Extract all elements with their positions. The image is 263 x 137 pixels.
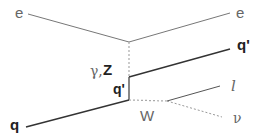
label-quark-in: q bbox=[10, 117, 19, 132]
label-lepton: l bbox=[231, 79, 236, 94]
quark-out-line bbox=[129, 49, 230, 77]
label-z: Z bbox=[103, 62, 112, 77]
electron-out-line bbox=[129, 13, 230, 42]
neutrino-line bbox=[167, 101, 222, 117]
electron-in-line bbox=[28, 14, 129, 42]
label-w-boson: W bbox=[140, 108, 154, 123]
label-electron-out: e bbox=[236, 5, 244, 20]
label-electron-in: e bbox=[15, 5, 23, 20]
w-propagator bbox=[129, 100, 167, 101]
quark-in-line bbox=[26, 100, 129, 127]
label-quark-out: q' bbox=[237, 37, 250, 52]
label-quark-internal: q' bbox=[113, 82, 125, 96]
lepton-line bbox=[167, 86, 220, 101]
label-neutrino: ν bbox=[233, 111, 242, 125]
label-gamma: γ, bbox=[90, 64, 103, 78]
feynman-diagram bbox=[0, 0, 263, 137]
